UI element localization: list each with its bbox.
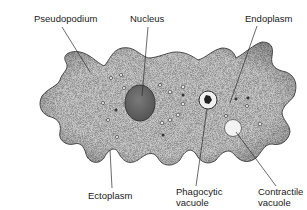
vesicle: [158, 83, 161, 86]
label-phagocytic-vacuole: Phagocytic vacuole: [176, 186, 222, 208]
vesicle: [162, 134, 164, 136]
leader-ectoplasm: [110, 150, 112, 188]
vesicle: [106, 118, 109, 121]
phagocytic-vacuole: [199, 91, 217, 109]
vesicle: [181, 85, 185, 89]
vesicle: [181, 102, 185, 106]
vesicle: [115, 135, 118, 138]
vesicle: [235, 98, 237, 100]
label-phagocytic-line2: vacuole: [176, 197, 222, 208]
vesicle: [168, 90, 172, 94]
vesicle: [160, 121, 164, 125]
vesicle: [115, 109, 117, 111]
label-pseudopodium: Pseudopodium: [34, 13, 97, 24]
vesicle: [109, 76, 112, 79]
vesicle: [182, 94, 184, 96]
vesicle: [119, 73, 122, 76]
label-phagocytic-line1: Phagocytic: [176, 186, 222, 197]
vesicle: [122, 86, 125, 89]
vesicle: [101, 101, 104, 104]
label-contractile-line1: Contractile: [258, 186, 303, 197]
label-contractile-line2: vacuole: [258, 197, 303, 208]
label-ectoplasm: Ectoplasm: [88, 190, 132, 201]
vesicle: [176, 113, 180, 117]
label-contractile-vacuole: Contractile vacuole: [258, 186, 303, 208]
vesicle: [224, 114, 227, 117]
label-nucleus: Nucleus: [130, 13, 164, 24]
amoeba-diagram: [0, 0, 307, 210]
nucleus: [125, 85, 155, 121]
vesicle: [247, 97, 249, 99]
label-endoplasm: Endoplasm: [245, 13, 293, 24]
vesicle: [245, 104, 248, 107]
vesicle: [258, 122, 262, 126]
vesicle: [168, 118, 172, 122]
contractile-vacuole: [225, 120, 242, 137]
